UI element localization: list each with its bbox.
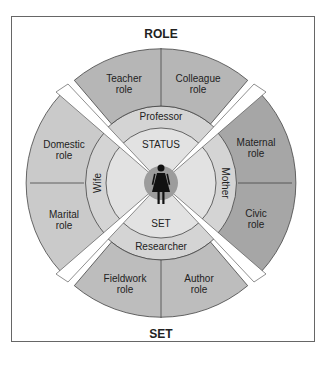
role-teacher: Teacher — [106, 73, 142, 84]
status-label: STATUS — [142, 139, 180, 150]
role-maternal: Maternal — [237, 137, 276, 148]
role-marital: Marital — [49, 209, 79, 220]
set-label: SET — [151, 218, 170, 229]
status-mother: Mother — [220, 167, 231, 199]
status-researcher: Researcher — [135, 241, 187, 252]
role-author-suffix: role — [191, 284, 208, 295]
role-author: Author — [184, 273, 214, 284]
role-domestic-suffix: role — [56, 150, 73, 161]
role-fieldwork: Fieldwork — [104, 273, 148, 284]
role-teacher-suffix: role — [116, 84, 133, 95]
role-fieldwork-suffix: role — [117, 284, 134, 295]
role-civic-suffix: role — [248, 219, 265, 230]
role-colleague: Colleague — [175, 73, 220, 84]
role-set-diagram: ROLE SET STATUS SET Professor Researcher… — [0, 0, 329, 366]
role-civic: Civic — [245, 208, 267, 219]
role-domestic: Domestic — [43, 139, 85, 150]
title-role: ROLE — [144, 27, 177, 41]
status-professor: Professor — [140, 111, 183, 122]
role-marital-suffix: role — [56, 220, 73, 231]
status-wife: Wife — [92, 173, 103, 193]
role-colleague-suffix: role — [190, 84, 207, 95]
title-set: SET — [149, 327, 173, 341]
role-maternal-suffix: role — [248, 148, 265, 159]
